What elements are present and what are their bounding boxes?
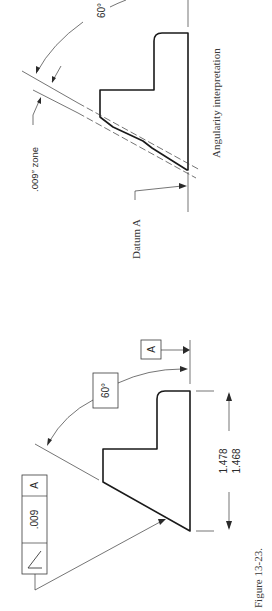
fcf-datum-cell: A bbox=[29, 482, 40, 489]
fcf-leader-arrow bbox=[158, 519, 166, 525]
basic-angle-arc-lower bbox=[49, 400, 93, 442]
part-outline-callout bbox=[103, 391, 190, 531]
angle-arc-interpretation bbox=[37, 22, 83, 72]
interpretation-title: Angularity interpretation bbox=[210, 48, 222, 158]
figure-13-23: 60° .009″ zone Angularity interpretation… bbox=[0, 0, 272, 611]
zone-boundary-outer bbox=[22, 71, 78, 103]
fcf-tolerance-cell: .009 bbox=[29, 509, 40, 529]
dimension-lower-limit: 1.468 bbox=[231, 448, 242, 473]
basic-angle-arc-upper bbox=[118, 369, 182, 383]
datum-label: Datum A bbox=[130, 219, 142, 259]
dimension-arrow-bottom bbox=[226, 521, 232, 530]
zone-boundary-outer-dash bbox=[78, 103, 200, 170]
zone-boundary-inner-dash bbox=[78, 113, 196, 178]
drawing-callout-view: A 60° 1.478 1.468 A .009 bbox=[22, 340, 264, 608]
basic-angle-arrow-upper bbox=[180, 366, 188, 372]
datum-symbol-letter: A bbox=[146, 346, 157, 353]
datum-label-leader bbox=[135, 186, 182, 200]
angle-arc-interpretation-top bbox=[110, 0, 126, 7]
angularity-interpretation-view: 60° .009″ zone Angularity interpretation… bbox=[22, 0, 222, 259]
figure-caption: Figure 13-23. bbox=[252, 548, 264, 608]
datum-label-arrow bbox=[179, 183, 187, 189]
basic-angle-value: 60° bbox=[100, 383, 111, 398]
basic-angle-arrow-lower bbox=[47, 438, 52, 446]
zone-arrow-top bbox=[52, 76, 56, 83]
dimension-arrow-top bbox=[226, 392, 232, 401]
feature-control-frame: A .009 bbox=[22, 475, 47, 574]
zone-label: .009″ zone bbox=[29, 147, 40, 192]
angle-label-interpretation: 60° bbox=[96, 3, 107, 18]
datum-triangle-icon bbox=[183, 346, 190, 354]
fcf-leader bbox=[35, 522, 160, 590]
dimension-upper-limit: 1.478 bbox=[218, 448, 229, 473]
zone-arrow-bottom bbox=[37, 97, 41, 104]
